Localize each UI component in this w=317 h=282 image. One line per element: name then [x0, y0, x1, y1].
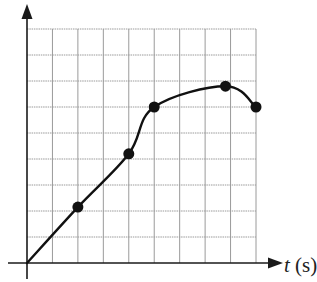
data-point-marker [251, 102, 262, 113]
data-point-marker [72, 202, 83, 213]
data-point-marker [123, 148, 134, 159]
data-point-marker [220, 81, 231, 92]
x-axis-label: t (s) [284, 253, 317, 278]
grid [27, 29, 256, 263]
chart-canvas [0, 0, 317, 282]
y-axis-arrow-icon [22, 4, 33, 19]
x-axis-variable: t [284, 253, 290, 277]
data-point-marker [149, 102, 160, 113]
data-curve [27, 86, 256, 263]
x-axis-unit: (s) [295, 253, 317, 277]
x-axis-arrow-icon [268, 258, 283, 269]
